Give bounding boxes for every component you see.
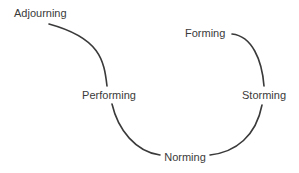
connector-forming-storming [232, 34, 264, 86]
stage-label-forming: Forming [185, 27, 225, 39]
connector-storming-norming [210, 105, 262, 155]
stage-label-norming: Norming [164, 151, 206, 163]
stage-label-performing: Performing [82, 89, 136, 101]
team-stages-diagram: Adjourning Forming Performing Storming N… [0, 0, 299, 173]
connector-performing-adjourning [49, 24, 107, 86]
stage-label-storming: Storming [242, 89, 286, 101]
stage-label-adjourning: Adjourning [14, 7, 67, 19]
connector-norming-performing [112, 104, 160, 155]
